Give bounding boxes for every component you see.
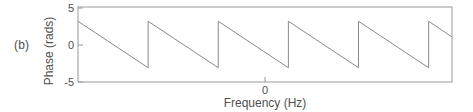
plot-area — [0, 0, 473, 112]
figure-panel-b: (b) Phase (rads) 5 0 -5 0 Frequency (Hz) — [0, 0, 473, 112]
axes-frame — [78, 7, 452, 82]
y-tick-marks — [78, 8, 83, 82]
sawtooth-phase-curve — [78, 21, 452, 68]
